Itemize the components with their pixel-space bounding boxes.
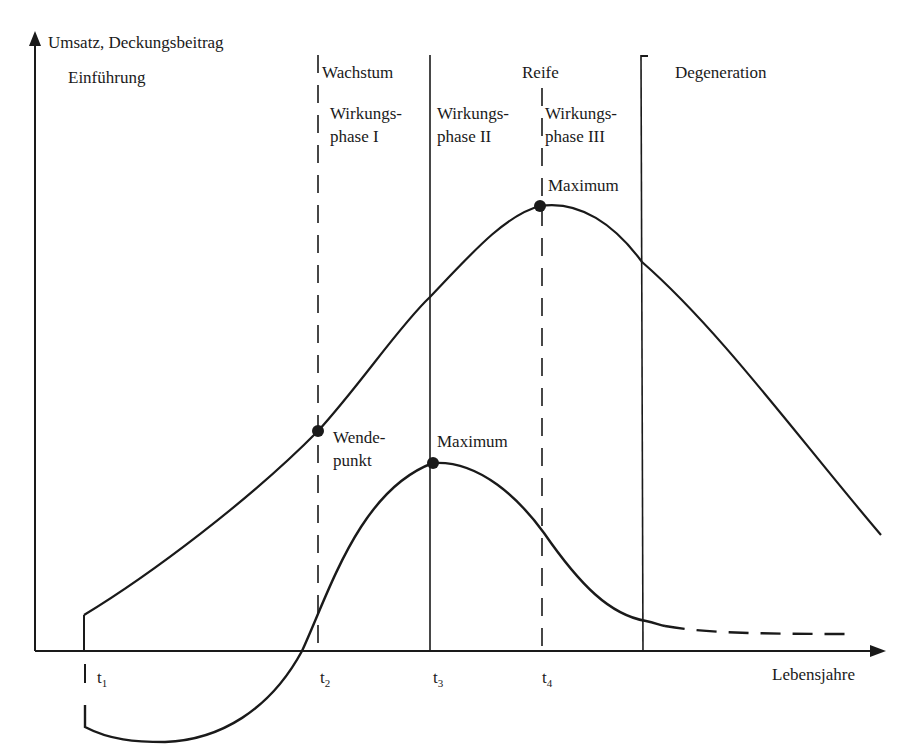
wirkungsphase-1-line1: Wirkungs- xyxy=(330,104,402,124)
phase-einfuehrung: Einführung xyxy=(68,68,145,88)
y-axis-arrow-icon xyxy=(29,31,41,46)
deckungsbeitrag-tail-dashed xyxy=(665,626,848,634)
x-axis-arrow-icon xyxy=(870,645,886,657)
wendepunkt-label-line2: punkt xyxy=(333,451,372,471)
tick-t4: t4 xyxy=(542,668,552,693)
umsatz-maximum-label: Maximum xyxy=(548,176,619,196)
db-maximum-label: Maximum xyxy=(437,432,508,452)
phase-degeneration: Degeneration xyxy=(675,63,767,83)
phase-wachstum: Wachstum xyxy=(322,63,393,83)
tick-t2: t2 xyxy=(320,668,330,693)
deckungsbeitrag-curve xyxy=(85,463,665,742)
wirkungsphase-2-line1: Wirkungs- xyxy=(437,104,509,124)
tick-t1: t1 xyxy=(97,668,107,693)
wirkungsphase-3-line2: phase III xyxy=(545,127,605,147)
phase-reife: Reife xyxy=(522,63,559,83)
wirkungsphase-3-line1: Wirkungs- xyxy=(545,104,617,124)
degeneration-divider xyxy=(641,55,643,651)
db-maximum-marker xyxy=(427,457,439,469)
wirkungsphase-1-line2: phase I xyxy=(330,127,379,147)
umsatz-curve xyxy=(84,205,881,615)
wendepunkt-marker xyxy=(312,425,324,437)
tick-t3: t3 xyxy=(433,668,443,693)
wendepunkt-label-line1: Wende- xyxy=(333,428,385,448)
y-axis xyxy=(29,31,41,651)
x-axis xyxy=(35,645,886,657)
y-axis-label: Umsatz, Deckungsbeitrag xyxy=(48,33,224,53)
wirkungsphase-2-line2: phase II xyxy=(437,127,491,147)
x-axis-label: Lebensjahre xyxy=(772,665,855,685)
umsatz-maximum-marker xyxy=(534,200,546,212)
